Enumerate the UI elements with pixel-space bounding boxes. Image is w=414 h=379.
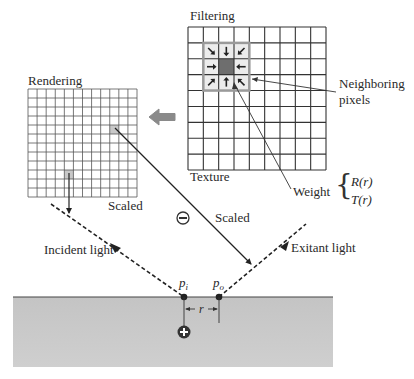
weight-label: Weight (293, 185, 330, 199)
scaled-right-label: Scaled (215, 211, 250, 225)
incident-light-label: Incident light (44, 243, 114, 257)
filtering-label: Filtering (190, 9, 235, 23)
texture-label: Texture (190, 170, 230, 184)
exitant-light-ray (219, 224, 306, 297)
rendering-label: Rendering (28, 74, 82, 88)
neighboring-label-line1: Neighboring (339, 77, 405, 91)
left-arrow-icon (149, 109, 175, 125)
exitant-light-label: Exitant light (291, 241, 356, 255)
weight-r-label: R(r) (351, 175, 373, 189)
texture-grid (188, 27, 326, 170)
neighboring-label-line2: pixels (339, 93, 370, 107)
r-label: r (199, 302, 204, 316)
rendering-grid (28, 89, 137, 197)
p-o-label: po (213, 276, 224, 291)
surface-slab (13, 297, 333, 367)
minus-circle-icon (177, 212, 189, 224)
scaled-left-label: Scaled (108, 199, 143, 213)
p-i-label: pi (179, 276, 188, 291)
weight-t-label: T(r) (351, 193, 372, 207)
plus-circle-icon (178, 326, 191, 339)
